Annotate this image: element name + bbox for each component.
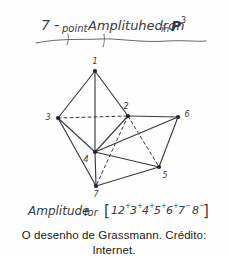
edge-3-4: [58, 118, 95, 152]
edge-3-7: [58, 118, 96, 186]
edge-3-2-dashed: [58, 116, 128, 118]
title-descender-two: [103, 34, 104, 47]
edge-1-3: [58, 71, 95, 118]
vertex-label-4: 4: [83, 155, 88, 164]
formula-term-2: 2: [118, 204, 125, 217]
vertex-dot-2: [126, 114, 130, 118]
formula-bracket-open: [: [104, 202, 110, 220]
formula-term-3: 3: [130, 204, 137, 217]
vertex-dot-7: [94, 184, 98, 188]
vertex-label-2: 2: [123, 102, 128, 111]
handwritten-figure: 7 - point Amplituhedron in P 3: [0, 0, 228, 224]
vertex-label-7: 7: [93, 190, 99, 199]
title-prefix: 7 -: [41, 17, 59, 33]
formula-term-7: 7: [178, 204, 185, 217]
edge-2-5-dashed: [128, 116, 159, 167]
figure-canvas: 7 - point Amplituhedron in P 3: [0, 0, 228, 224]
edge-2-6: [128, 116, 178, 117]
edge-5-7: [96, 167, 159, 186]
edge-4-7: [95, 152, 96, 186]
edge-4-5: [95, 152, 159, 167]
formula-label: Amplitude: [27, 204, 90, 218]
vertex-dot-3: [56, 116, 60, 120]
formula-term-1: 1: [111, 204, 118, 217]
vertex-dot-4: [93, 150, 97, 154]
vertex-label-1: 1: [92, 57, 97, 66]
edge-4-6: [95, 117, 178, 152]
vertex-label-5: 5: [162, 171, 167, 180]
formula-connector: for: [84, 207, 99, 218]
edge-5-6: [159, 117, 178, 167]
title-handwriting: 7 - point Amplituhedron in P 3: [36, 16, 206, 47]
vertex-dot-6: [176, 115, 180, 119]
title-exponent: 3: [181, 16, 186, 25]
formula-bracket-close: ]: [203, 202, 209, 220]
title-underline-stroke: [36, 39, 206, 43]
title-word-point: point: [61, 23, 89, 34]
formula-handwriting: Amplitude for [ 1 2 + 3 + 4 + 5 + 6 + 7 …: [27, 202, 209, 220]
image-caption: O desenho de Grassmann. Crédito: Interne…: [0, 228, 228, 258]
formula-term-4: 4: [142, 204, 149, 217]
vertex-dot-1: [93, 69, 97, 73]
edge-2-7-dashed: [96, 116, 128, 186]
vertex-label-6: 6: [184, 110, 189, 119]
formula-term-6: 6: [166, 204, 173, 217]
title-word-in: in: [161, 24, 170, 34]
vertex-label-3: 3: [45, 113, 50, 122]
formula-term-8: 8: [192, 204, 199, 217]
title-word-amplituhedron: Amplituhedron: [87, 18, 184, 33]
formula-sign-7: −: [185, 202, 191, 210]
vertex-dot-5: [157, 165, 161, 169]
graph-edges-dashed: [58, 116, 159, 186]
edge-2-4: [95, 116, 128, 152]
formula-term-5: 5: [154, 204, 161, 217]
